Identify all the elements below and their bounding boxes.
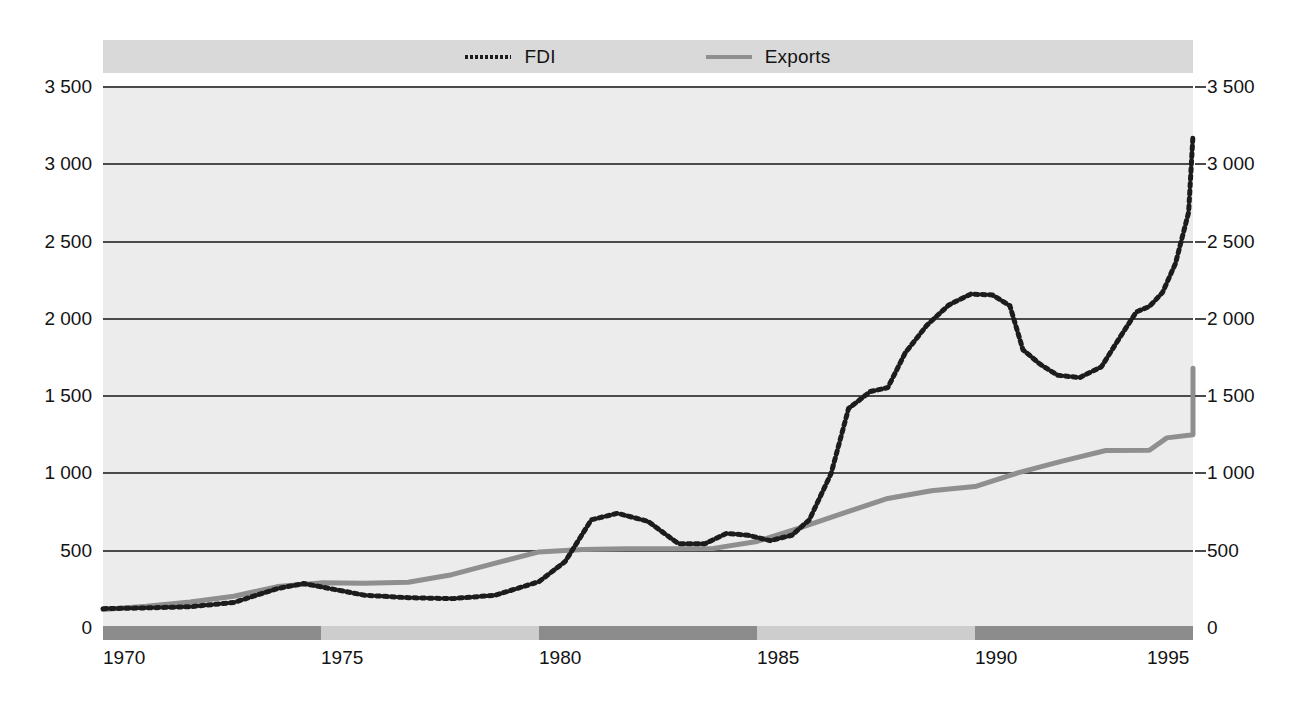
y-axis-tick-label-left: 2 500 [44, 232, 92, 251]
y-axis-tick-mark [1195, 241, 1206, 243]
chart-legend: FDI Exports [103, 40, 1193, 73]
solid-line-swatch-icon [706, 55, 752, 59]
x-axis-tick-label: 1995 [1147, 648, 1189, 667]
y-axis-tick-label-left: 1 000 [44, 463, 92, 482]
x-axis-band-segment [321, 626, 539, 640]
x-axis-band-segment [539, 626, 757, 640]
legend-entry-fdi: FDI [465, 40, 555, 73]
y-axis-tick-label-right: 2 000 [1207, 309, 1255, 328]
y-axis-tick-label-right: 500 [1207, 541, 1239, 560]
y-axis-tick-label-left: 3 500 [44, 77, 92, 96]
y-axis-tick-label-left: 0 [81, 618, 92, 637]
y-axis-tick-label-left: 1 500 [44, 386, 92, 405]
y-axis-tick-mark [1195, 472, 1206, 474]
legend-label-fdi: FDI [524, 46, 555, 68]
y-axis-tick-label-right: 1 500 [1207, 386, 1255, 405]
series-line-exports [103, 368, 1193, 609]
y-axis-tick-label-left: 500 [60, 541, 92, 560]
plot-area [103, 87, 1193, 628]
x-axis-tick-label: 1975 [321, 648, 363, 667]
y-axis-tick-label-right: 0 [1207, 618, 1218, 637]
x-axis-tick-label: 1990 [975, 648, 1017, 667]
x-axis-tick-label: 1985 [757, 648, 799, 667]
y-axis-tick-mark [1195, 318, 1206, 320]
x-axis-band-segment [103, 626, 321, 640]
y-axis-tick-label-right: 1 000 [1207, 463, 1255, 482]
y-axis-tick-label-right: 2 500 [1207, 232, 1255, 251]
y-axis-tick-label-right: 3 000 [1207, 154, 1255, 173]
series-lines [103, 87, 1193, 628]
x-axis-tick-label: 1980 [539, 648, 581, 667]
x-axis-band-segment [757, 626, 975, 640]
x-axis-tick-label: 1970 [103, 648, 145, 667]
y-axis-tick-mark [1195, 395, 1206, 397]
y-axis-tick-label-left: 2 000 [44, 309, 92, 328]
y-axis-tick-mark [1195, 163, 1206, 165]
y-axis-tick-mark [1195, 550, 1206, 552]
series-line-fdi [103, 135, 1193, 609]
x-axis-band [103, 626, 1193, 640]
legend-label-exports: Exports [765, 46, 831, 68]
chart-container: FDI Exports 005005001 0001 0001 5001 500… [0, 0, 1295, 716]
y-axis-tick-mark [1195, 86, 1206, 88]
y-axis-tick-label-right: 3 500 [1207, 77, 1255, 96]
legend-entry-exports: Exports [706, 40, 831, 73]
y-axis-tick-label-left: 3 000 [44, 154, 92, 173]
dotted-line-swatch-icon [465, 55, 511, 59]
x-axis-band-segment [975, 626, 1193, 640]
